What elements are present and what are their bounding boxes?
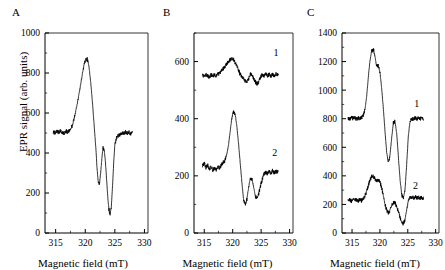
svg-text:320: 320 [78,238,93,248]
svg-text:1200: 1200 [318,57,337,67]
svg-text:200: 200 [175,171,190,181]
svg-text:600: 600 [26,108,41,118]
svg-text:0: 0 [35,228,40,238]
plot-area-a: 02004006008001000315320325330 [0,0,152,270]
svg-text:320: 320 [226,238,241,248]
svg-text:200: 200 [323,200,338,210]
svg-text:1400: 1400 [318,28,337,38]
svg-text:325: 325 [108,238,123,248]
curve-label-1: 1 [414,98,419,109]
svg-text:1000: 1000 [318,86,337,96]
svg-text:0: 0 [184,228,189,238]
curve-label-2: 2 [272,147,277,158]
svg-text:400: 400 [26,148,41,158]
curve-label-2: 2 [413,180,418,191]
svg-text:320: 320 [373,238,388,248]
x-axis-label-b: Magnetic field (mT) [158,257,297,269]
svg-text:330: 330 [282,238,297,248]
x-axis-label-c: Magnetic field (mT) [305,257,445,269]
svg-text:315: 315 [49,238,64,248]
x-axis-label-a: Magnetic field (mT) [14,257,152,269]
svg-text:400: 400 [175,114,190,124]
curve-label-1: 1 [273,47,278,58]
svg-text:600: 600 [175,57,190,67]
plot-area-c: 020040060080010001200140031532032533012 [297,0,445,270]
svg-text:0: 0 [332,228,337,238]
panel-c: C 02004006008001000120014003153203253301… [297,0,445,270]
svg-text:800: 800 [26,68,41,78]
svg-text:400: 400 [323,171,338,181]
svg-text:600: 600 [323,143,338,153]
figure-epr-spectra: A EPR signal (arb. units) 02004006008001… [0,0,445,270]
svg-text:315: 315 [197,238,212,248]
svg-text:330: 330 [137,238,152,248]
panel-a: A EPR signal (arb. units) 02004006008001… [0,0,152,270]
plot-area-b: 020040060031532032533012 [152,0,297,270]
svg-text:315: 315 [345,238,360,248]
svg-text:1000: 1000 [21,28,40,38]
svg-text:325: 325 [254,238,269,248]
svg-text:330: 330 [429,238,444,248]
svg-text:800: 800 [323,114,338,124]
panel-b: B 020040060031532032533012 Magnetic fiel… [152,0,297,270]
svg-text:325: 325 [401,238,416,248]
svg-text:200: 200 [26,188,41,198]
